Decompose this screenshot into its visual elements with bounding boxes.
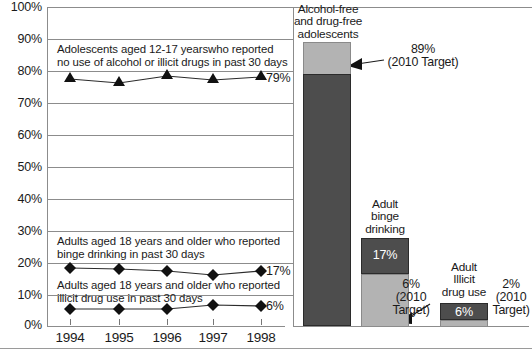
- bar-target-label-adult-illicit-drug-use: 2% (2010 Target): [489, 278, 532, 317]
- bar-current-label-adult-illicit-drug-use: 6%: [440, 305, 488, 319]
- end-label-binge: 17%: [266, 264, 290, 278]
- bar-current-alcohol-free-adolescents: [303, 74, 351, 326]
- bar-current-label-adult-binge-drinking: 17%: [361, 248, 409, 262]
- bar-target-caption: (2010 Target): [489, 291, 532, 317]
- bar-title-line2: binge: [357, 210, 413, 222]
- series-binge-markers: [64, 262, 267, 281]
- end-label-adolescents: 79%: [266, 71, 290, 85]
- bar-target-alcohol-free-adolescents: [303, 42, 351, 75]
- x-tick-1997: [213, 319, 214, 325]
- bar-target-adult-illicit-drug-use: [440, 320, 488, 326]
- bar-target-label-alcohol-free-adolescents: 89% (2010 Target): [368, 43, 478, 69]
- bar-title-line2: and drug-free: [291, 15, 365, 27]
- x-tick-1995: [119, 319, 120, 325]
- bar-target-label-adult-binge-drinking: 6% (2010 Target): [382, 278, 440, 317]
- x-axis-label-1998: 1998: [231, 330, 291, 345]
- bar-title-adult-binge-drinking: Adult binge drinking: [357, 198, 413, 235]
- bar-title-line3: adolescents: [291, 28, 365, 40]
- bar-title-line2: Illicit: [434, 273, 494, 285]
- bar-title-alcohol-free-adolescents: Alcohol-free and drug-free adolescents: [291, 3, 365, 40]
- series-illicit-markers: [64, 299, 267, 315]
- bar-title-line3: drug use: [434, 286, 494, 298]
- x-tick-1994: [70, 319, 71, 325]
- series-adolescents-markers: [64, 69, 267, 86]
- x-tick-1996: [167, 319, 168, 325]
- bar-title-adult-illicit-drug-use: Adult Illicit drug use: [434, 261, 494, 298]
- bar-title-line3: drinking: [357, 223, 413, 235]
- bar-target-caption: (2010 Target): [382, 291, 440, 317]
- x-tick-1998: [261, 319, 262, 325]
- bar-target-caption: (2010 Target): [368, 56, 478, 69]
- chart-canvas: 100% 90% 80% 70% 60% 50% 40% 30% 20% 10%…: [0, 0, 532, 352]
- end-label-illicit: 6%: [266, 299, 284, 313]
